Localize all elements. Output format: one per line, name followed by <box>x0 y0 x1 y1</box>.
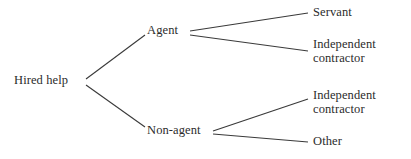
tree-diagram: Hired help Agent Non-agent Servant Indep… <box>0 0 411 159</box>
node-hired-help: Hired help <box>14 74 68 88</box>
node-non-agent: Non-agent <box>147 124 201 138</box>
node-independent-contractor-non-agent: Independent contractor <box>313 89 409 116</box>
node-independent-contractor-agent: Independent contractor <box>313 38 409 65</box>
node-independent-contractor-non-agent-line1: Independent <box>313 89 409 103</box>
node-independent-contractor-non-agent-line2: contractor <box>313 103 409 117</box>
edge-root-to-non-agent <box>86 85 145 127</box>
edge-agent-to-independent-contractor <box>190 35 308 51</box>
node-independent-contractor-agent-line1: Independent <box>313 38 409 52</box>
edge-non-agent-to-other <box>213 134 308 142</box>
node-other: Other <box>313 135 342 149</box>
edge-agent-to-servant <box>190 13 308 31</box>
node-agent: Agent <box>147 24 178 38</box>
edge-non-agent-to-independent-contractor <box>213 99 308 131</box>
node-independent-contractor-agent-line2: contractor <box>313 52 409 66</box>
edge-root-to-agent <box>86 35 145 79</box>
node-servant: Servant <box>313 6 352 20</box>
